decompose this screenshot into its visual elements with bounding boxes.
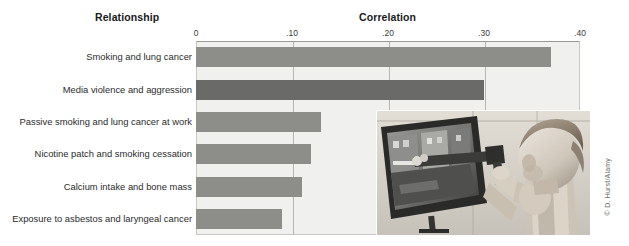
- photo-credit: © D. Hurst/Alamy: [604, 158, 611, 215]
- category-label: Media violence and aggression: [6, 84, 196, 95]
- category-label: Nicotine patch and smoking cessation: [6, 148, 196, 159]
- category-labels: Smoking and lung cancerMedia violence an…: [0, 41, 196, 235]
- relationship-column-heading: Relationship: [95, 11, 159, 23]
- bar: [196, 112, 321, 132]
- category-label: Calcium intake and bone mass: [6, 181, 196, 192]
- category-label: Smoking and lung cancer: [6, 51, 196, 62]
- category-label: Exposure to asbestos and laryngeal cance…: [6, 213, 196, 224]
- video-game-photo: [376, 110, 591, 236]
- bar: [196, 144, 311, 164]
- category-label: Passive smoking and lung cancer at work: [6, 116, 196, 127]
- bar: [196, 80, 484, 100]
- bar: [196, 47, 551, 67]
- x-tick-label: .10: [286, 28, 298, 38]
- x-axis-tick-labels: 0.10.20.30.40: [0, 28, 629, 42]
- correlation-axis-title: Correlation: [359, 11, 416, 23]
- bar: [196, 177, 302, 197]
- photo-illustration: [377, 111, 590, 235]
- x-tick-label: 0: [194, 28, 199, 38]
- x-tick-label: .40: [574, 28, 586, 38]
- x-tick-label: .30: [478, 28, 490, 38]
- chart-figure: Relationship Correlation 0.10.20.30.40 S…: [0, 0, 629, 246]
- x-tick-label: .20: [382, 28, 394, 38]
- bar: [196, 209, 282, 229]
